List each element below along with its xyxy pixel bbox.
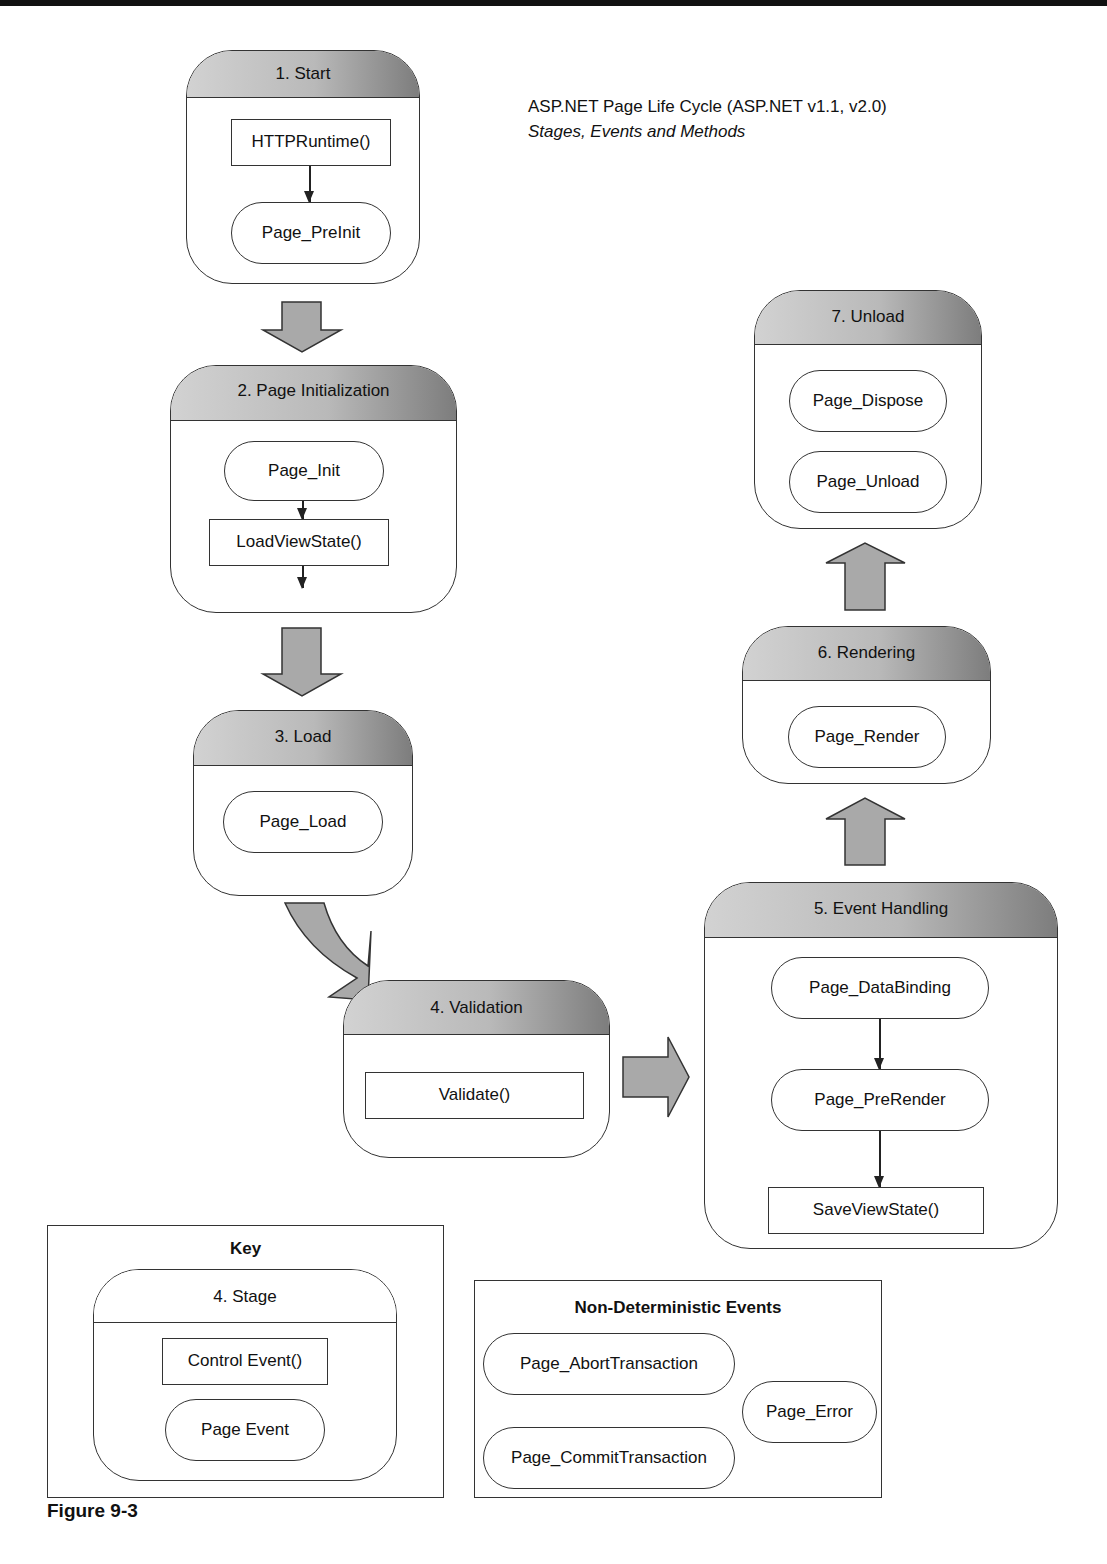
event-page-aborttransaction[interactable]: Page_AbortTransaction [483,1333,735,1395]
arrow-up-icon [826,798,905,865]
stage-unload: 7. Unload Page_Dispose Page_Unload [754,290,982,529]
arrow-down-icon [263,302,341,352]
stage-start: 1. Start HTTPRuntime() Page_PreInit [186,50,420,284]
non-deterministic-title: Non-Deterministic Events [475,1298,881,1318]
stage-load: 3. Load Page_Load [193,710,413,896]
stage-validation: 4. Validation Validate() [343,980,610,1158]
event-page-render[interactable]: Page_Render [788,706,946,768]
arrow-right-icon [623,1037,689,1117]
connector-arrow-icon [879,1131,881,1187]
key-method-example: Control Event() [162,1338,328,1385]
key-title: Key [48,1239,443,1259]
connector-arrow-icon [879,1019,881,1069]
connector-arrow-icon [302,566,304,588]
key-event-example: Page Event [165,1399,325,1461]
event-page-prerender[interactable]: Page_PreRender [771,1069,989,1131]
event-page-init[interactable]: Page_Init [224,441,384,501]
arrow-down-icon [263,628,341,696]
connector-arrow-icon [309,166,311,202]
event-page-committransaction[interactable]: Page_CommitTransaction [483,1427,735,1489]
method-loadviewstate[interactable]: LoadViewState() [209,519,389,566]
key-stage-example: 4. Stage Control Event() Page Event [93,1269,397,1481]
stage-event-handling: 5. Event Handling Page_DataBinding Page_… [704,882,1058,1249]
stage-header: 6. Rendering [743,627,990,681]
event-page-dispose[interactable]: Page_Dispose [789,370,947,432]
non-deterministic-events-panel: Non-Deterministic Events Page_AbortTrans… [474,1280,882,1498]
stage-rendering: 6. Rendering Page_Render [742,626,991,784]
event-page-load[interactable]: Page_Load [223,791,383,853]
stage-page-initialization: 2. Page Initialization Page_Init LoadVie… [170,365,457,613]
method-validate[interactable]: Validate() [365,1072,584,1119]
method-httpruntime[interactable]: HTTPRuntime() [231,119,391,166]
stage-header: 4. Validation [344,981,609,1035]
stage-header: 3. Load [194,711,412,766]
event-page-error[interactable]: Page_Error [742,1381,877,1443]
key-panel: Key 4. Stage Control Event() Page Event [47,1225,444,1498]
event-page-unload[interactable]: Page_Unload [789,451,947,513]
stage-header: 5. Event Handling [705,883,1057,938]
arrow-up-icon [826,543,905,610]
stage-header: 1. Start [187,51,419,98]
event-page-preinit[interactable]: Page_PreInit [231,202,391,264]
key-stage-header: 4. Stage [94,1270,396,1323]
connector-arrow-icon [302,501,304,519]
figure-caption: Figure 9-3 [47,1500,138,1522]
stage-header: 2. Page Initialization [171,366,456,421]
stage-header: 7. Unload [755,291,981,345]
method-saveviewstate[interactable]: SaveViewState() [768,1187,984,1234]
event-page-databinding[interactable]: Page_DataBinding [771,957,989,1019]
